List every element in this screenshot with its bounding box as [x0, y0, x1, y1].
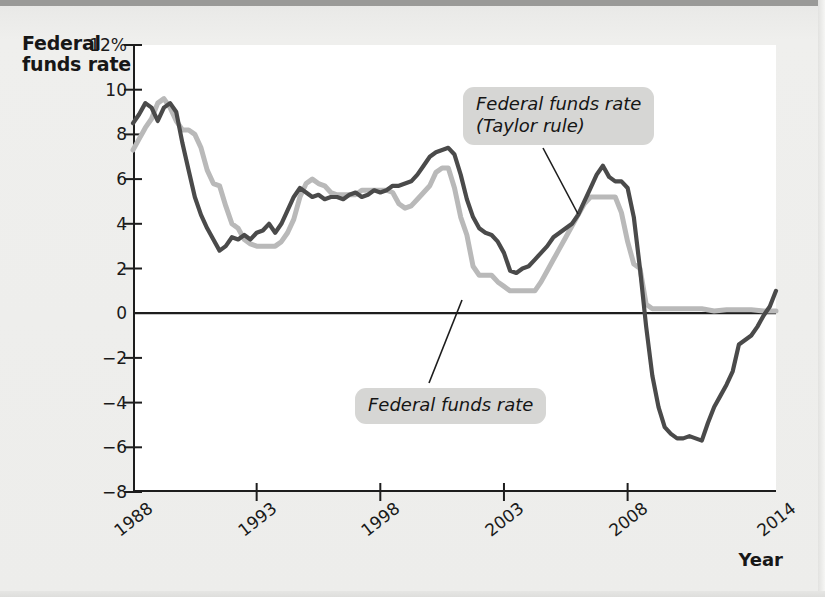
- x-tick-label: 2008: [605, 498, 651, 540]
- chart-svg: [133, 45, 776, 492]
- page-bottom-edge: [0, 591, 825, 597]
- page-top-edge: [0, 0, 825, 6]
- callout-taylor-line1: Federal funds rate: [476, 93, 641, 114]
- x-axis-title: Year: [738, 549, 783, 570]
- callout-federal-funds-rate: Federal funds rate: [355, 388, 546, 424]
- page-right-edge: [818, 0, 825, 597]
- y-tick-label: −4: [57, 393, 127, 413]
- y-tick-label: −8: [57, 482, 127, 502]
- y-tick-label: 2: [57, 259, 127, 279]
- plot-wrapper: [133, 45, 776, 492]
- x-tick-label: 1993: [234, 498, 280, 540]
- callout-taylor-rule: Federal funds rate (Taylor rule): [463, 87, 654, 145]
- x-axis-tick-labels: 198819931998200320082014: [133, 492, 783, 562]
- y-tick-label: −2: [57, 348, 127, 368]
- y-tick-label: 0: [57, 303, 127, 323]
- series-line: [133, 99, 776, 311]
- y-tick-label: 4: [57, 214, 127, 234]
- x-tick-label: 1998: [357, 498, 403, 540]
- callout-taylor-line2: (Taylor rule): [476, 115, 641, 137]
- y-axis-tick-labels: 12%1086420−2−4−6−8: [55, 45, 127, 492]
- y-tick-label: 6: [57, 169, 127, 189]
- y-tick-label: 10: [57, 80, 127, 100]
- y-tick-label: 8: [57, 124, 127, 144]
- chart-page: Federal funds rate 12%1086420−2−4−6−8 19…: [0, 0, 825, 597]
- y-tick-label: −6: [57, 437, 127, 457]
- x-tick-label: 2003: [481, 498, 527, 540]
- y-tick-label: 12%: [57, 35, 127, 55]
